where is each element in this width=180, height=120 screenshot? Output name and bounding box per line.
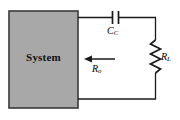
resistor-zigzag-path — [151, 40, 161, 73]
output-resistance-label-sub: o — [98, 67, 101, 74]
capacitor-label: CC — [107, 26, 118, 37]
capacitor-label-main: C — [107, 25, 114, 36]
circuit-diagram-figure: System CC Ro RL — [0, 0, 180, 120]
capacitor-label-sub: C — [114, 29, 119, 36]
load-resistor-label: RL — [161, 52, 171, 63]
load-resistor-label-sub: L — [167, 55, 171, 62]
system-block-label: System — [9, 51, 78, 63]
output-resistance-label: Ro — [92, 64, 102, 75]
output-resistance-arrow-head — [84, 56, 92, 63]
